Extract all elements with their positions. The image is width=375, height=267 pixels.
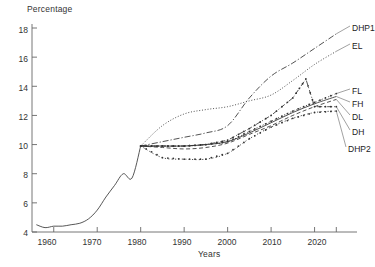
plot-area (0, 0, 375, 267)
line-chart: Percentage Years 18 16 14 12 10 8 6 4 19… (0, 0, 375, 267)
